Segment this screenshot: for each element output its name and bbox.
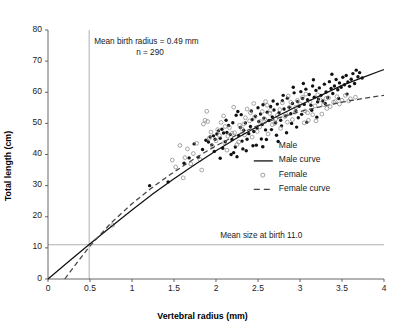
data-point	[220, 128, 223, 131]
data-point	[320, 112, 324, 116]
data-point	[282, 94, 285, 97]
data-point	[282, 107, 285, 110]
data-point	[356, 75, 359, 78]
data-point	[302, 82, 305, 85]
data-point	[334, 78, 337, 81]
legend-label-female-curve: Female curve	[279, 184, 331, 194]
data-point	[265, 138, 268, 141]
data-point	[241, 147, 244, 150]
data-point	[255, 143, 258, 146]
data-point	[231, 121, 234, 124]
data-point	[335, 95, 339, 99]
legend-label-female: Female	[279, 170, 307, 180]
x-tick-label-4: 4	[370, 284, 398, 294]
data-point	[226, 134, 230, 138]
y-tick-label-40: 40	[18, 149, 42, 159]
x-tick-label-2.5: 2.5	[244, 284, 272, 294]
legend-label-male-curve: Male curve	[279, 155, 321, 165]
data-point	[331, 92, 334, 95]
y-tick-label-80: 80	[18, 25, 42, 35]
data-point	[245, 107, 249, 111]
data-point	[328, 80, 331, 83]
data-point	[244, 116, 248, 120]
x-axis-title: Vertebral radius (mm)	[0, 311, 405, 321]
data-point	[225, 131, 228, 134]
y-tick-label-60: 60	[18, 87, 42, 97]
data-point	[178, 144, 182, 148]
legend-label-male: Male	[279, 141, 297, 151]
data-point	[355, 68, 358, 71]
data-point	[212, 134, 215, 137]
data-point	[255, 130, 259, 134]
data-point	[205, 109, 209, 113]
figure: Total length (cm) Vertebral radius (mm) …	[0, 0, 405, 332]
data-point	[266, 132, 270, 136]
data-point	[224, 119, 227, 122]
data-point	[354, 95, 358, 99]
data-point	[235, 155, 238, 158]
annotation-mean-birth-radius: Mean birth radius = 0.49 mm	[94, 36, 198, 47]
y-tick-label-30: 30	[18, 180, 42, 190]
data-point	[350, 77, 353, 80]
y-tick-label-70: 70	[18, 56, 42, 66]
data-point	[233, 131, 237, 135]
curve-female-curve	[65, 95, 384, 279]
data-point	[261, 103, 264, 106]
data-point	[285, 131, 288, 134]
data-point	[236, 110, 239, 113]
data-point	[299, 90, 302, 93]
annotation-mean-size-at-birth: Mean size at birth 11.0	[220, 230, 302, 241]
data-point	[245, 138, 248, 141]
data-point	[225, 148, 229, 152]
data-point	[183, 156, 187, 160]
data-point	[311, 113, 315, 117]
y-tick-label-10: 10	[18, 242, 42, 252]
x-tick-label-0: 0	[34, 284, 62, 294]
x-tick-label-2: 2	[202, 284, 230, 294]
data-point	[248, 119, 252, 123]
data-point	[245, 149, 248, 152]
y-axis-title: Total length (cm)	[3, 131, 13, 201]
data-point	[148, 184, 151, 187]
data-point	[304, 87, 307, 90]
legend-marker-female	[261, 173, 265, 177]
data-point	[222, 114, 226, 118]
data-point	[200, 168, 204, 172]
data-point	[201, 148, 204, 151]
data-point	[264, 128, 267, 131]
data-point	[209, 130, 213, 134]
data-point	[314, 119, 318, 123]
data-point	[174, 165, 178, 169]
data-point	[276, 102, 279, 105]
data-point	[256, 106, 259, 109]
data-point	[219, 121, 223, 125]
data-point	[223, 125, 227, 129]
data-point	[240, 113, 243, 116]
data-point	[275, 134, 278, 137]
data-point	[260, 137, 263, 140]
data-point	[338, 81, 341, 84]
data-point	[181, 176, 185, 180]
data-point	[330, 72, 333, 75]
data-point	[278, 108, 282, 112]
x-tick-label-0.5: 0.5	[76, 284, 104, 294]
data-point	[232, 105, 236, 109]
data-point	[312, 78, 315, 81]
data-point	[338, 102, 342, 106]
y-axis-title-wrap: Total length (cm)	[1, 96, 15, 236]
data-point	[249, 125, 252, 128]
data-point	[250, 135, 254, 139]
data-point	[300, 113, 303, 116]
data-point	[353, 82, 356, 85]
data-point	[304, 92, 308, 96]
data-point	[295, 125, 298, 128]
data-point	[252, 102, 256, 106]
y-tick-label-20: 20	[18, 211, 42, 221]
data-point	[318, 86, 321, 89]
x-tick-label-3: 3	[286, 284, 314, 294]
data-point	[314, 89, 317, 92]
data-point	[313, 104, 317, 108]
data-point	[345, 74, 348, 77]
data-point	[297, 116, 300, 119]
data-point	[291, 118, 295, 122]
